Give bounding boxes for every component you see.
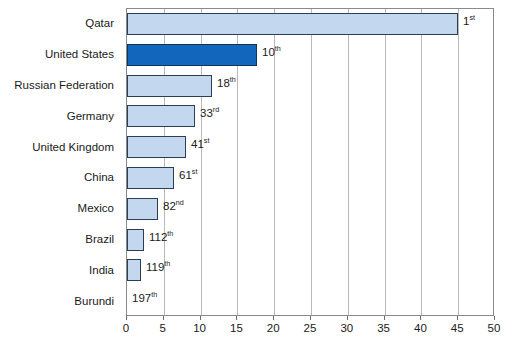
x-tick-label-30: 30 bbox=[340, 322, 353, 335]
x-tick-label-0: 0 bbox=[123, 322, 129, 335]
bar-united-kingdom[interactable] bbox=[127, 136, 186, 158]
category-label-burundi: Burundi bbox=[0, 295, 114, 307]
rank-label-india: 119th bbox=[146, 261, 170, 274]
rank-label-germany: 33rd bbox=[200, 107, 219, 120]
category-label-germany: Germany bbox=[0, 110, 114, 122]
bar-row: 119th bbox=[127, 255, 493, 286]
bar-row: 82nd bbox=[127, 194, 493, 225]
x-tick-30 bbox=[347, 316, 348, 320]
x-tick-label-10: 10 bbox=[193, 322, 206, 335]
category-label-brazil: Brazil bbox=[0, 233, 114, 245]
x-tick-label-20: 20 bbox=[267, 322, 280, 335]
category-label-mexico: Mexico bbox=[0, 202, 114, 214]
x-tick-10 bbox=[200, 316, 201, 320]
category-label-india: India bbox=[0, 264, 114, 276]
bar-row: 41st bbox=[127, 132, 493, 163]
x-axis-ticks bbox=[126, 316, 494, 321]
x-tick-25 bbox=[310, 316, 311, 320]
category-label-china: China bbox=[0, 171, 114, 183]
bar-row: 18th bbox=[127, 71, 493, 102]
bar-india[interactable] bbox=[127, 259, 141, 281]
x-tick-label-50: 50 bbox=[488, 322, 501, 335]
x-tick-15 bbox=[236, 316, 237, 320]
category-label-united-states: United States bbox=[0, 48, 114, 60]
x-tick-5 bbox=[163, 316, 164, 320]
category-label-russian-federation: Russian Federation bbox=[0, 79, 114, 91]
rank-label-russian-federation: 18th bbox=[217, 77, 236, 90]
x-tick-35 bbox=[384, 316, 385, 320]
bar-germany[interactable] bbox=[127, 105, 195, 127]
x-tick-label-45: 45 bbox=[451, 322, 464, 335]
x-tick-40 bbox=[420, 316, 421, 320]
bar-row: 33rd bbox=[127, 101, 493, 132]
x-tick-20 bbox=[273, 316, 274, 320]
rank-label-brazil: 112th bbox=[149, 231, 173, 244]
x-tick-label-40: 40 bbox=[414, 322, 427, 335]
x-tick-label-15: 15 bbox=[230, 322, 243, 335]
x-axis-tick-labels: 05101520253035404550 bbox=[0, 322, 513, 342]
bar-russian-federation[interactable] bbox=[127, 75, 212, 97]
bar-qatar[interactable] bbox=[127, 13, 458, 35]
bar-row: 197th bbox=[127, 286, 493, 317]
bar-row: 10th bbox=[127, 40, 493, 71]
rank-label-united-states: 10th bbox=[262, 46, 281, 59]
rank-label-china: 61st bbox=[179, 169, 197, 182]
bar-chart: QatarUnited StatesRussian FederationGerm… bbox=[0, 0, 513, 360]
x-tick-label-5: 5 bbox=[160, 322, 166, 335]
rank-label-qatar: 1st bbox=[463, 15, 475, 28]
x-tick-label-25: 25 bbox=[304, 322, 317, 335]
bars-layer: 1st10th18th33rd41st61st82nd112th119th197… bbox=[127, 9, 493, 315]
gridline-50 bbox=[495, 9, 496, 315]
category-axis-labels: QatarUnited StatesRussian FederationGerm… bbox=[0, 8, 120, 316]
category-label-united-kingdom: United Kingdom bbox=[0, 141, 114, 153]
rank-label-burundi: 197th bbox=[132, 292, 157, 305]
bar-brazil[interactable] bbox=[127, 229, 144, 251]
bar-row: 1st bbox=[127, 9, 493, 40]
bar-china[interactable] bbox=[127, 167, 174, 189]
category-label-qatar: Qatar bbox=[0, 17, 114, 29]
plot-area: 1st10th18th33rd41st61st82nd112th119th197… bbox=[126, 8, 494, 316]
rank-label-united-kingdom: 41st bbox=[191, 138, 209, 151]
bar-united-states[interactable] bbox=[127, 44, 257, 66]
bar-mexico[interactable] bbox=[127, 198, 158, 220]
x-tick-0 bbox=[126, 316, 127, 320]
bar-row: 112th bbox=[127, 225, 493, 256]
x-tick-45 bbox=[457, 316, 458, 320]
bar-row: 61st bbox=[127, 163, 493, 194]
x-tick-50 bbox=[494, 316, 495, 320]
x-tick-label-35: 35 bbox=[377, 322, 390, 335]
rank-label-mexico: 82nd bbox=[163, 200, 184, 213]
